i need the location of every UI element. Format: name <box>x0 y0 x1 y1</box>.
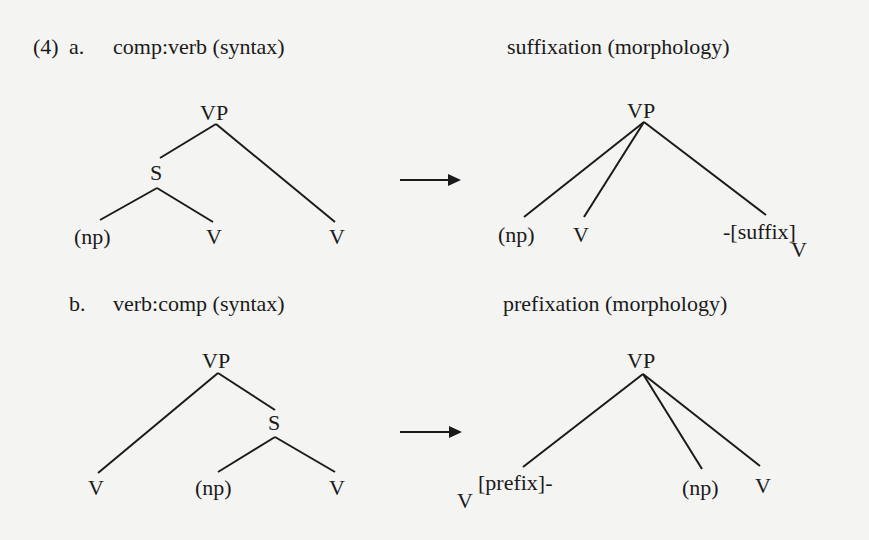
branch-b-s-np <box>218 437 275 472</box>
branch-a-s-v <box>157 188 213 222</box>
tree-leaf-v: V <box>755 475 771 497</box>
branch-a-vp-s <box>160 124 216 158</box>
right-arrow-icon <box>400 174 461 186</box>
branch-a-vp-v <box>216 124 335 222</box>
example-a-morphology-heading: suffixation (morphology) <box>507 36 730 58</box>
tree-leaf-np: (np) <box>195 477 232 499</box>
diagram-canvas: (4) a. comp:verb (syntax) suffixation (m… <box>0 0 869 540</box>
tree-leaf-np: (np) <box>74 226 111 248</box>
tree-leaf-v: V <box>329 226 345 248</box>
branch-b-vp-s <box>218 373 275 410</box>
tree-leaf-v: V <box>88 477 104 499</box>
tree-node-s: S <box>150 162 162 184</box>
right-arrow-icon <box>400 426 462 438</box>
branch-b-vp-v <box>98 373 218 473</box>
example-number: (4) <box>33 36 59 58</box>
tree-leaf-v: V <box>206 226 222 248</box>
example-b-syntax-heading: verb:comp (syntax) <box>113 293 285 315</box>
branch-b-morph-vp-np <box>643 374 702 469</box>
example-b-morphology-heading: prefixation (morphology) <box>503 293 727 315</box>
tree-leaf-np: (np) <box>682 477 719 499</box>
tree-branches <box>0 0 869 540</box>
branch-b-s-v <box>275 437 335 472</box>
branch-b-morph-vp-v <box>643 374 760 466</box>
suffix-category-subscript: V <box>791 239 807 261</box>
tree-node-vp: VP <box>200 102 228 124</box>
tree-leaf-suffix: -[suffix] <box>723 221 796 243</box>
tree-node-vp: VP <box>627 350 655 372</box>
tree-leaf-v: V <box>573 224 589 246</box>
example-a-letter: a. <box>69 36 84 58</box>
branch-b-morph-vp-prefix <box>523 374 643 467</box>
branch-a-s-np <box>100 188 157 220</box>
tree-leaf-np: (np) <box>498 224 535 246</box>
tree-leaf-prefix: [prefix]- <box>478 472 553 494</box>
prefix-category-subscript: V <box>457 490 473 512</box>
example-a-syntax-heading: comp:verb (syntax) <box>113 36 285 58</box>
example-b-letter: b. <box>69 293 86 315</box>
branch-a-morph-vp-v <box>584 122 644 217</box>
tree-node-vp: VP <box>202 350 230 372</box>
branch-a-morph-vp-np <box>524 122 644 217</box>
tree-node-s: S <box>268 412 280 434</box>
branch-a-morph-vp-suffix <box>644 122 766 215</box>
tree-leaf-v: V <box>329 477 345 499</box>
tree-node-vp: VP <box>627 100 655 122</box>
